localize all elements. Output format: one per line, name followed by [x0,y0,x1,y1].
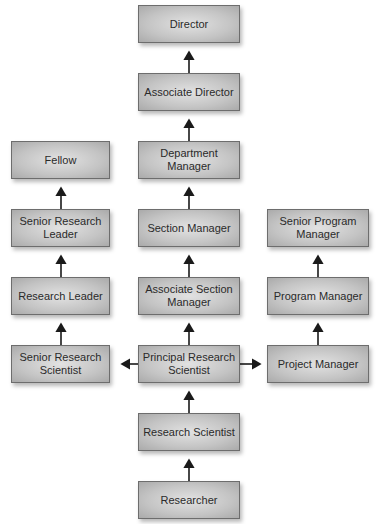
node-director: Director [138,5,240,43]
node-associate-section-manager: Associate Section Manager [138,277,240,315]
node-department-manager: Department Manager [138,141,240,179]
node-fellow: Fellow [11,141,110,179]
node-researcher: Researcher [138,481,240,519]
node-senior-research-leader: Senior Research Leader [11,209,110,247]
node-principal-research-scientist: Principal Research Scientist [138,345,240,383]
node-section-manager: Section Manager [138,209,240,247]
node-project-manager: Project Manager [267,345,369,383]
node-senior-research-scientist: Senior Research Scientist [11,345,110,383]
node-research-leader: Research Leader [11,277,110,315]
node-senior-program-manager: Senior Program Manager [267,209,369,247]
node-research-scientist: Research Scientist [138,413,240,451]
node-associate-director: Associate Director [138,73,240,111]
node-program-manager: Program Manager [267,277,369,315]
